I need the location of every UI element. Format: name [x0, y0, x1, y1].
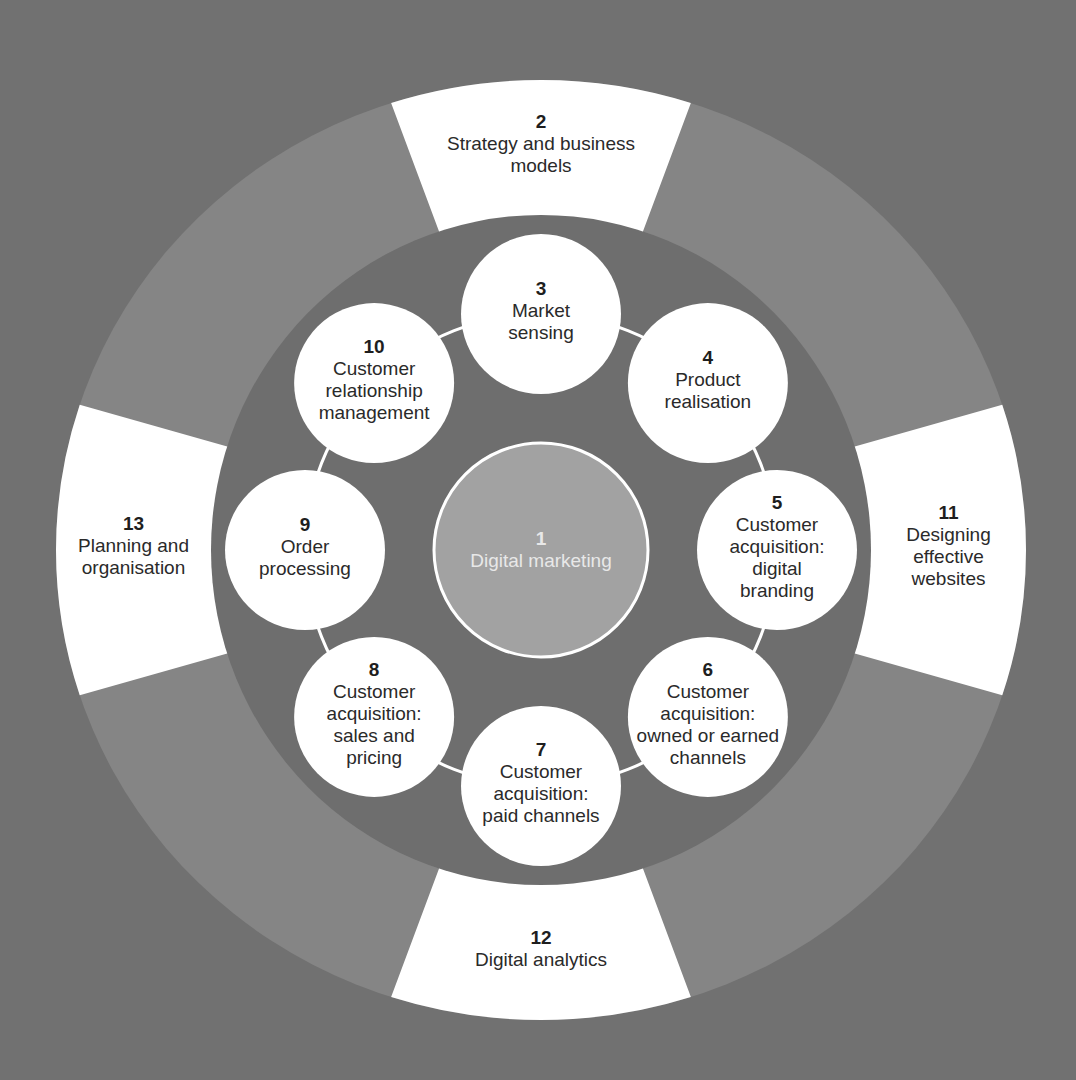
center-number: 1: [536, 528, 547, 549]
node-label-line: channels: [670, 747, 746, 768]
segment-label-line: Designing: [906, 524, 991, 545]
node-label-line: Order: [281, 536, 330, 557]
node-number: 7: [536, 739, 547, 760]
node-number: 10: [364, 336, 385, 357]
digital-marketing-framework-diagram: 2Strategy and businessmodels11Designinge…: [0, 0, 1076, 1080]
node-number: 5: [772, 492, 783, 513]
node-label-line: owned or earned: [637, 725, 780, 746]
node-label-line: realisation: [665, 391, 752, 412]
diagram-canvas: 2Strategy and businessmodels11Designinge…: [0, 0, 1076, 1080]
node-label-line: Product: [675, 369, 741, 390]
node-label-line: digital: [752, 558, 802, 579]
node-label-line: Customer: [500, 761, 583, 782]
inner-node-3: 3Marketsensing: [461, 234, 621, 394]
segment-label-line: models: [510, 155, 571, 176]
inner-node-4: 4Productrealisation: [628, 303, 788, 463]
outer-segment-13: 13Planning andorganisation: [56, 405, 228, 695]
center-node: 1 Digital marketing: [434, 443, 648, 657]
node-label-line: Customer: [667, 681, 750, 702]
inner-node-10: 10Customerrelationshipmanagement: [294, 303, 454, 463]
node-label-line: acquisition:: [660, 703, 755, 724]
segment-label-line: websites: [911, 568, 986, 589]
segment-label-line: effective: [913, 546, 983, 567]
segment-number: 11: [938, 502, 959, 523]
node-label-line: paid channels: [482, 805, 599, 826]
segment-number: 13: [123, 513, 144, 534]
segment-label-line: Digital analytics: [475, 949, 607, 970]
segment-label-line: Planning and: [78, 535, 189, 556]
outer-segment-12: 12Digital analytics: [391, 868, 691, 1020]
node-label-line: acquisition:: [327, 703, 422, 724]
segment-label-line: organisation: [82, 557, 186, 578]
node-label-line: processing: [259, 558, 351, 579]
inner-node-5: 5Customeracquisition:digitalbranding: [697, 470, 857, 630]
node-label-line: Customer: [736, 514, 819, 535]
segment-number: 12: [530, 927, 551, 948]
node-number: 9: [300, 514, 311, 535]
node-label-line: Market: [512, 300, 571, 321]
node-label-line: pricing: [346, 747, 402, 768]
node-number: 8: [369, 659, 380, 680]
node-label-line: sales and: [333, 725, 414, 746]
node-label-line: acquisition:: [729, 536, 824, 557]
inner-node-8: 8Customeracquisition:sales andpricing: [294, 637, 454, 797]
inner-node-7: 7Customeracquisition:paid channels: [461, 706, 621, 866]
node-number: 4: [703, 347, 714, 368]
outer-segment-11: 11Designingeffectivewebsites: [854, 405, 1026, 695]
center-label: Digital marketing: [470, 550, 612, 571]
node-label-line: branding: [740, 580, 814, 601]
node-label-line: management: [319, 402, 431, 423]
node-label-line: relationship: [326, 380, 423, 401]
node-number: 6: [703, 659, 714, 680]
node-label-line: Customer: [333, 358, 416, 379]
node-label-line: Customer: [333, 681, 416, 702]
node-number: 3: [536, 278, 547, 299]
inner-node-6: 6Customeracquisition:owned or earnedchan…: [628, 637, 788, 797]
outer-segment-2: 2Strategy and businessmodels: [391, 80, 691, 232]
node-label-line: acquisition:: [493, 783, 588, 804]
segment-label-line: Strategy and business: [447, 133, 635, 154]
segment-number: 2: [536, 111, 547, 132]
inner-node-9: 9Orderprocessing: [225, 470, 385, 630]
node-label-line: sensing: [508, 322, 574, 343]
